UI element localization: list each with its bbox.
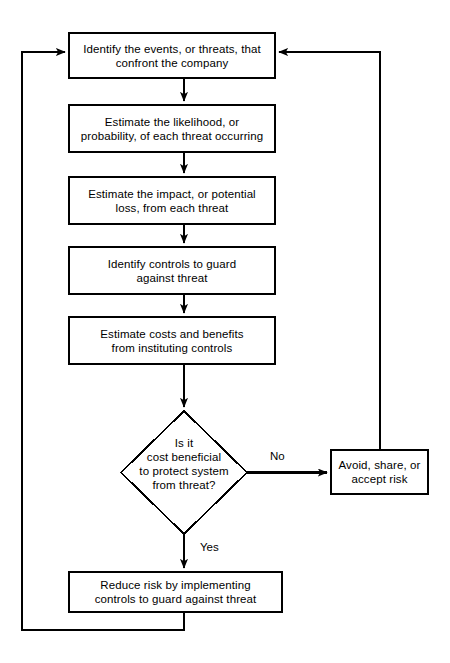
node-identify-controls-shape <box>69 247 275 294</box>
edge-avoid-loop-back-to-identify <box>279 52 380 450</box>
node-estimate-impact-shape <box>69 177 275 224</box>
flowchart-canvas <box>0 0 450 663</box>
node-reduce-risk-shape <box>69 572 282 612</box>
node-estimate-likelihood-shape <box>69 105 275 152</box>
node-estimate-costs-benefits-shape <box>69 317 275 364</box>
node-identify-events-shape <box>69 33 275 78</box>
edge-label-yes: Yes <box>200 541 219 554</box>
edge-reduce-risk-loop-back-to-identify <box>22 52 184 630</box>
flowchart-diagram: Identify the events, or threats, that co… <box>0 0 450 663</box>
edge-label-no: No <box>270 450 285 463</box>
node-avoid-share-accept-shape <box>331 450 428 494</box>
node-cost-beneficial-decision-shape <box>121 411 247 534</box>
